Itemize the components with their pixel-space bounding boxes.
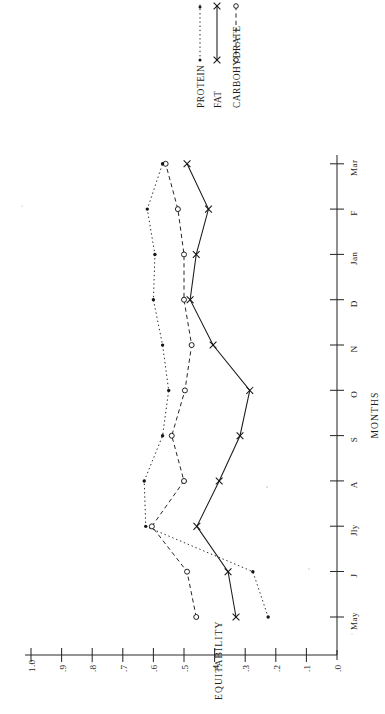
equitability-months-line-chart: 1.0 .9 .8 .7 .6 .5 .4 .3 .2 .1 .0 EQUITA… [0,0,385,714]
scan-speckles [21,205,352,663]
data-point-marker [216,478,223,485]
chart-figure: 1.0 .9 .8 .7 .6 .5 .4 .3 .2 .1 .0 EQUITA… [0,0,385,714]
data-point-marker [182,252,187,257]
x-tick-label-oct: O [349,391,359,398]
data-point-marker [161,343,164,346]
x-tick-label-mar: Mar [349,160,359,176]
y-tick-label-0.5: .5 [180,664,190,672]
data-point-marker [184,160,191,167]
data-point-marker [182,297,187,302]
x-axis-title: MONTHS [369,391,380,438]
data-point-marker [161,434,164,437]
fat-markers [184,160,254,620]
protein-markers [143,162,270,619]
y-tick-label-0.0: .0 [333,664,343,672]
x-tick-label-jun: J [349,573,359,577]
data-point-marker [143,479,146,482]
x-tick-label-jly: Jly [349,524,359,536]
series-fat [184,160,254,620]
equitability-axis: 1.0 .9 .8 .7 .6 .5 .4 .3 .2 .1 .0 EQUITA… [25,620,343,700]
x-tick-label-sep: S [349,437,359,442]
data-point-marker [266,615,269,618]
data-point-marker [193,523,200,530]
y-tick-label-0.3: .3 [241,664,251,672]
x-tick-label-aug: A [349,481,359,488]
data-point-marker [210,342,217,349]
series-carbohydrate [149,161,198,619]
y-tick-label-0.2: .2 [272,664,282,672]
months-axis: May J Jly A S O N D Jan F Mar MONTHS [330,155,380,655]
data-point-marker [152,298,155,301]
data-point-marker [185,569,190,574]
y-tick-label-0.8: .8 [88,664,98,672]
carbohydrate-line [152,164,196,617]
x-tick-label-nov: N [349,345,359,352]
series-protein [143,162,270,619]
fat-line [187,164,250,617]
chart-legend: PROTEIN FAT CARBOHYDRATE [196,3,242,108]
data-point-marker [194,615,199,620]
legend-label-carbohydrate: CARBOHYDRATE [232,25,242,108]
y-axis-title: EQUITABILITY [213,620,224,700]
y-tick-label-0.1: .1 [302,664,312,672]
x-tick-label-feb: F [349,210,359,215]
y-tick-label-1.0: 1.0 [27,660,37,672]
x-tick-label-jan: Jan [349,252,359,265]
x-tick-label-dec: D [349,300,359,307]
data-point-marker [205,206,212,213]
y-tick-label-0.9: .9 [58,664,68,672]
data-point-marker [175,207,180,212]
legend-item-protein: PROTEIN [196,5,206,108]
legend-item-fat: FAT [213,3,223,108]
data-point-marker [189,343,194,348]
data-point-marker [146,207,149,210]
data-point-marker [182,479,187,484]
legend-label-protein: PROTEIN [196,65,206,108]
data-point-marker [182,388,187,393]
data-point-marker [251,570,254,573]
x-tick-label-may: May [349,612,359,630]
data-point-marker [169,433,174,438]
data-point-marker [167,389,170,392]
y-tick-label-0.7: .7 [119,664,129,672]
carbohydrate-markers [149,161,198,619]
data-point-marker [144,525,147,528]
legend-label-fat: FAT [213,90,223,108]
y-tick-label-0.6: .6 [149,664,159,672]
data-point-marker [161,162,164,165]
legend-item-carbohydrate: CARBOHYDRATE [232,4,242,108]
data-point-marker [153,253,156,256]
